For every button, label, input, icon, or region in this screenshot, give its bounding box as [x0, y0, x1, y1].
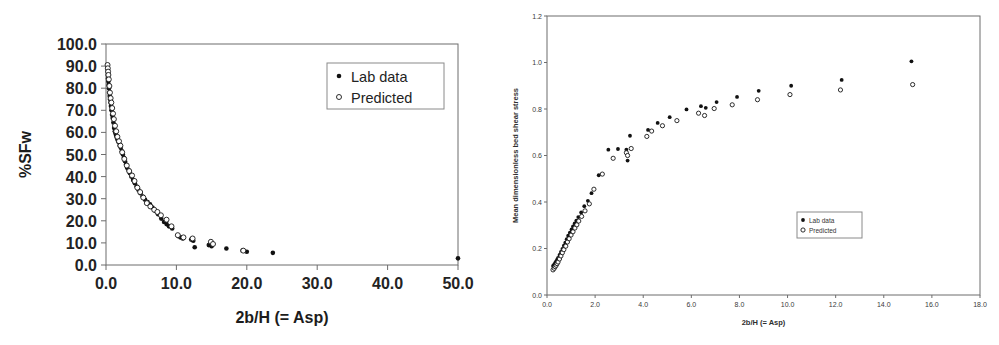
- data-point-predicted: [629, 146, 633, 150]
- chart-panel-left: 0.010.020.030.040.050.00.010.020.030.040…: [0, 0, 500, 345]
- x-tick-label: 16.0: [925, 301, 939, 308]
- x-tick-label: 6.0: [686, 301, 696, 308]
- data-point-predicted: [730, 103, 734, 107]
- legend-label: Predicted: [351, 90, 412, 106]
- legend-marker-lab: [337, 74, 342, 79]
- data-point-predicted: [122, 156, 127, 161]
- data-point-predicted: [564, 244, 568, 248]
- series-predicted: [105, 62, 246, 253]
- data-point-lab: [224, 246, 229, 251]
- data-point-predicted: [211, 242, 216, 247]
- x-tick-label: 2.0: [590, 301, 600, 308]
- data-point-predicted: [241, 248, 246, 253]
- data-point-predicted: [625, 153, 629, 157]
- legend: Lab dataPredicted: [327, 63, 444, 109]
- y-tick-label: 50.0: [66, 147, 97, 164]
- data-point-predicted: [712, 106, 716, 110]
- data-point-lab: [582, 204, 586, 208]
- data-point-predicted: [169, 224, 174, 229]
- data-point-predicted: [181, 235, 186, 240]
- x-tick-label: 0.0: [95, 275, 117, 292]
- data-point-lab: [271, 251, 276, 256]
- y-tick-label: 0.8: [532, 106, 542, 113]
- data-point-lab: [840, 78, 844, 82]
- data-point-predicted: [580, 214, 584, 218]
- data-point-lab: [685, 108, 689, 112]
- x-axis-title: 2b/H (= Asp): [742, 318, 786, 327]
- data-point-predicted: [110, 106, 115, 111]
- y-tick-label: 10.0: [66, 235, 97, 252]
- y-tick-label: 30.0: [66, 191, 97, 208]
- data-point-lab: [735, 95, 739, 99]
- data-point-predicted: [650, 129, 654, 133]
- data-point-lab: [656, 121, 660, 125]
- x-tick-label: 30.0: [302, 275, 333, 292]
- y-tick-label: 60.0: [66, 124, 97, 141]
- y-tick-label: 1.2: [532, 13, 542, 20]
- data-point-predicted: [645, 134, 649, 138]
- legend-label: Lab data: [351, 69, 408, 85]
- data-point-predicted: [132, 179, 137, 184]
- data-point-predicted: [106, 77, 111, 82]
- x-axis-ticks: 0.010.020.030.040.050.0: [95, 265, 474, 292]
- data-point-predicted: [696, 111, 700, 115]
- data-point-predicted: [164, 217, 169, 222]
- data-point-predicted: [592, 187, 596, 191]
- data-point-lab: [699, 104, 703, 108]
- y-tick-label: 20.0: [66, 213, 97, 230]
- x-axis-ticks: 0.02.04.06.08.010.012.014.016.018.0: [542, 295, 987, 308]
- y-axis-title: Mean dimensionless bed shear stress: [511, 88, 520, 223]
- data-point-lab: [628, 134, 632, 138]
- legend-label: Lab data: [809, 217, 835, 224]
- y-tick-label: 0.0: [532, 292, 542, 299]
- data-point-lab: [910, 59, 914, 63]
- y-tick-label: 0.0: [75, 257, 97, 274]
- right-chart-svg: 0.02.04.06.08.010.012.014.016.018.00.00.…: [500, 0, 999, 345]
- y-tick-label: 0.2: [532, 245, 542, 252]
- y-axis-title: %SFw: [17, 130, 34, 178]
- data-point-predicted: [660, 124, 664, 128]
- data-point-predicted: [120, 150, 125, 155]
- data-point-predicted: [755, 98, 759, 102]
- data-point-lab: [456, 256, 461, 261]
- axes-group: [547, 16, 980, 295]
- data-point-predicted: [838, 88, 842, 92]
- y-axis-ticks: 0.010.020.030.040.050.060.070.080.090.01…: [57, 36, 106, 274]
- data-point-predicted: [175, 233, 180, 238]
- legend-marker-lab: [801, 218, 805, 222]
- data-point-predicted: [141, 195, 146, 200]
- data-point-lab: [590, 191, 594, 195]
- legend-label: Predicted: [809, 227, 837, 234]
- data-point-predicted: [190, 236, 195, 241]
- data-point-predicted: [583, 209, 587, 213]
- data-point-predicted: [788, 92, 792, 96]
- x-tick-label: 10.0: [161, 275, 192, 292]
- data-point-lab: [616, 147, 620, 151]
- x-tick-label: 18.0: [973, 301, 987, 308]
- x-tick-label: 8.0: [735, 301, 745, 308]
- y-tick-label: 40.0: [66, 169, 97, 186]
- data-point-lab: [704, 106, 708, 110]
- data-point-lab: [606, 148, 610, 152]
- y-tick-label: 0.4: [532, 199, 542, 206]
- x-tick-label: 20.0: [231, 275, 262, 292]
- data-point-lab: [789, 84, 793, 88]
- data-point-predicted: [113, 123, 118, 128]
- y-tick-label: 90.0: [66, 58, 97, 75]
- data-point-lab: [715, 100, 719, 104]
- x-tick-label: 40.0: [372, 275, 403, 292]
- data-point-predicted: [111, 117, 116, 122]
- data-point-lab: [757, 89, 761, 93]
- data-point-predicted: [600, 172, 604, 176]
- data-point-predicted: [124, 163, 129, 168]
- y-tick-label: 80.0: [66, 80, 97, 97]
- data-point-lab: [668, 115, 672, 119]
- data-point-predicted: [130, 173, 135, 178]
- data-point-predicted: [587, 202, 591, 206]
- series-predicted: [551, 82, 915, 272]
- figure-root: 0.010.020.030.040.050.00.010.020.030.040…: [0, 0, 999, 345]
- legend-marker-predicted: [801, 228, 805, 232]
- left-chart-svg: 0.010.020.030.040.050.00.010.020.030.040…: [0, 0, 500, 345]
- y-tick-label: 1.0: [532, 59, 542, 66]
- data-point-predicted: [111, 111, 116, 116]
